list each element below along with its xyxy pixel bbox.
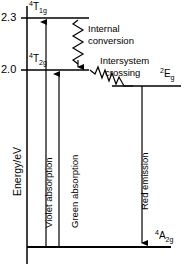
energy-level-diagram: Energy/eV 2.3 2.0 4T1g 4T2g 2Eg 4A2g Int…	[0, 0, 188, 264]
y-axis	[21, 6, 27, 264]
internal-conversion-label-line1: Internal	[88, 24, 120, 35]
internal-conversion-label-line2: conversion	[88, 36, 134, 47]
green-absorption-label: Green absorption	[70, 155, 81, 228]
state-label-eg: 2Eg	[160, 68, 174, 79]
state-label-eg-symbol: E	[164, 68, 171, 79]
intersystem-crossing-label-line1: Intersystem	[100, 56, 149, 67]
y-tick-label-2-3: 2.3	[1, 11, 16, 23]
state-label-a2g: 4A2g	[155, 230, 173, 241]
state-label-t2g: 4T2g	[29, 53, 47, 64]
y-axis-title: Energy/eV	[12, 147, 24, 196]
internal-conversion-wavy-arrow	[73, 20, 83, 67]
red-emission-label: Red emission	[140, 152, 151, 210]
state-label-a2g-symbol: A	[159, 230, 166, 241]
state-label-t2g-sub: 2g	[39, 59, 47, 66]
state-label-t1g-sub: 1g	[39, 7, 47, 14]
state-label-t1g: 4T1g	[29, 1, 47, 12]
violet-absorption-label: Violet absorption	[44, 157, 55, 228]
state-label-eg-sub: g	[171, 74, 175, 81]
state-label-a2g-sub: 2g	[166, 236, 174, 243]
intersystem-crossing-label-line2: crossing	[105, 68, 140, 79]
y-tick-label-2-0: 2.0	[1, 63, 16, 75]
